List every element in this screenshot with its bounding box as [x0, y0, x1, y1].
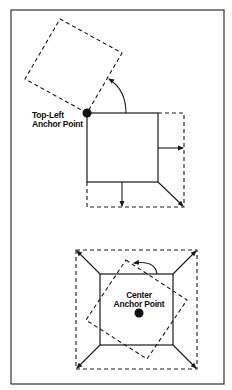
top-left-anchor-label: Top-Left Anchor Point: [32, 111, 83, 129]
scale-top-left-arrow: [77, 251, 100, 274]
scale-top-right-arrow: [173, 251, 196, 274]
top-left-anchor-label-line2: Anchor Point: [32, 120, 83, 129]
center-anchor-dot: [135, 309, 144, 318]
scale-bottom-right-arrow: [173, 345, 196, 368]
center-anchor-label: Center Anchor Point: [108, 291, 170, 309]
scale-diagonal-arrow: [158, 182, 183, 206]
original-square: [87, 113, 158, 182]
top-left-anchor-dot: [83, 109, 92, 118]
center-anchor-panel: [76, 250, 197, 369]
anchor-point-diagram: [0, 0, 232, 390]
outer-frame: [11, 10, 224, 384]
center-anchor-label-line2: Anchor Point: [108, 300, 170, 309]
rotation-arc-arrow: [109, 79, 126, 113]
scale-bottom-left-arrow: [77, 345, 100, 368]
rotated-square-dashed: [25, 19, 122, 113]
